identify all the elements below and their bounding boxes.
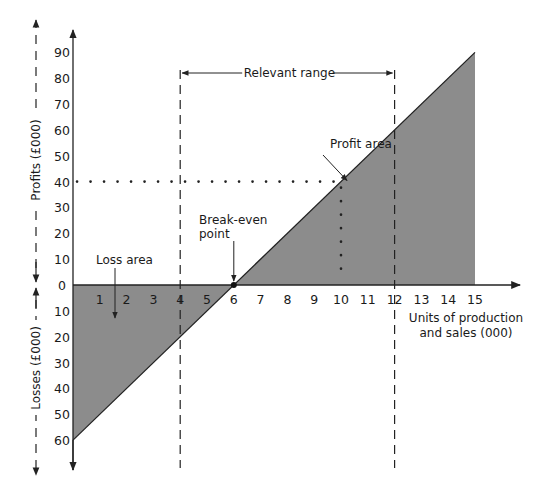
y-tick-profit: 30 — [54, 200, 70, 215]
y-axis-label-losses: Losses (£000) — [29, 326, 43, 410]
x-tick: 6 — [230, 292, 238, 307]
y-tick-profit: 70 — [54, 97, 70, 112]
x-tick: 10 — [333, 292, 349, 307]
y-tick-loss: 10 — [54, 304, 70, 319]
y-tick-profit: 60 — [54, 123, 70, 138]
break-even-label-line2: point — [199, 227, 230, 241]
y-tick-profit: 20 — [54, 226, 70, 241]
y-tick-profit: 90 — [54, 45, 70, 60]
break-even-chart: Relevant range Profits (£000)Losses (£00… — [0, 0, 542, 492]
x-tick: 8 — [283, 292, 291, 307]
y-tick-loss: 20 — [54, 330, 70, 345]
x-tick: 4 — [176, 292, 184, 307]
y-tick-profit: 80 — [54, 71, 70, 86]
relevant-range-label: Relevant range — [244, 66, 335, 80]
break-even-label-line1: Break-even — [199, 213, 267, 227]
profit-area-arrow — [323, 155, 347, 181]
x-tick: 14 — [440, 292, 456, 307]
profit-area-label: Profit area — [330, 137, 392, 151]
y-tick-profit: 10 — [54, 252, 70, 267]
y-tick-profit: 40 — [54, 175, 70, 190]
y-tick-loss: 30 — [54, 356, 70, 371]
x-axis-label-line1: Units of production — [409, 311, 523, 325]
x-tick: 13 — [413, 292, 429, 307]
y-tick-loss: 60 — [54, 433, 70, 448]
y-tick-loss: 50 — [54, 407, 70, 422]
y-tick-profit: 0 — [58, 278, 66, 293]
y-tick-loss: 40 — [54, 381, 70, 396]
x-tick: 15 — [467, 292, 483, 307]
y-tick-profit: 50 — [54, 149, 70, 164]
x-tick: 2 — [123, 292, 131, 307]
x-tick: 1 — [96, 292, 104, 307]
x-tick: 12 — [387, 292, 403, 307]
y-axis-label-profits: Profits (£000) — [29, 119, 43, 200]
x-tick: 9 — [310, 292, 318, 307]
x-axis-label-line2: and sales (000) — [419, 326, 512, 340]
loss-area-label: Loss area — [96, 253, 153, 267]
break-even-point-marker — [231, 282, 237, 288]
x-tick: 3 — [149, 292, 157, 307]
x-tick: 7 — [257, 292, 265, 307]
x-tick: 5 — [203, 292, 211, 307]
x-tick: 11 — [360, 292, 376, 307]
